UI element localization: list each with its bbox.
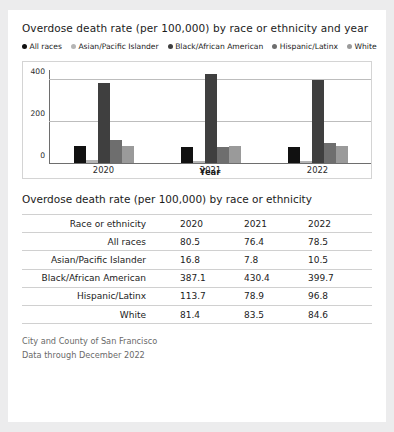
- legend-marker-icon: [272, 44, 277, 49]
- table-cell-label: Black/African American: [22, 269, 180, 287]
- bar: [74, 146, 86, 163]
- table-row: White81.483.584.6: [22, 305, 372, 323]
- table-cell-label: Asian/Pacific Islander: [22, 251, 180, 269]
- bar-group: 2020: [50, 70, 157, 163]
- bar: [217, 147, 229, 163]
- table-cell-value: 16.8: [180, 251, 244, 269]
- bar-group: 2022: [264, 70, 371, 163]
- bar-groups: 202020212022: [50, 70, 371, 163]
- bar: [122, 146, 134, 163]
- legend-marker-icon: [71, 44, 76, 49]
- bar: [98, 83, 110, 163]
- table-cell-value: 430.4: [244, 269, 308, 287]
- table-cell-value: 76.4: [244, 233, 308, 251]
- report-card: Overdose death rate (per 100,000) by rac…: [8, 10, 386, 422]
- table-row: Asian/Pacific Islander16.87.810.5: [22, 251, 372, 269]
- legend-item: White: [347, 42, 377, 51]
- legend-label: All races: [30, 42, 62, 51]
- table-header-row: Race or ethnicity 2020 2021 2022: [22, 215, 372, 233]
- table-cell-value: 7.8: [244, 251, 308, 269]
- plot-area: 0200400 202020212022: [49, 70, 371, 164]
- table-cell-value: 81.4: [180, 305, 244, 323]
- chart-panel: 0200400 202020212022 Year: [22, 61, 372, 179]
- table-cell-value: 96.8: [308, 287, 372, 305]
- legend-marker-icon: [168, 44, 173, 49]
- legend-label: Asian/Pacific Islander: [78, 42, 158, 51]
- legend-label: Hispanic/Latinx: [280, 42, 338, 51]
- legend-item: Asian/Pacific Islander: [71, 42, 159, 51]
- table-cell-value: 113.7: [180, 287, 244, 305]
- footer: City and County of San Francisco Data th…: [22, 335, 372, 362]
- bar: [300, 161, 312, 163]
- bar: [312, 80, 324, 163]
- chart-title: Overdose death rate (per 100,000) by rac…: [22, 22, 372, 34]
- table-cell-value: 80.5: [180, 233, 244, 251]
- y-axis-tick-label: 400: [31, 66, 46, 75]
- y-axis-tick-label: 0: [40, 151, 45, 160]
- table-cell-value: 78.5: [308, 233, 372, 251]
- footer-date: Data through December 2022: [22, 349, 372, 363]
- table-cell-value: 84.6: [308, 305, 372, 323]
- bar: [229, 146, 241, 163]
- table-header-2021: 2021: [244, 215, 308, 233]
- table-cell-label: White: [22, 305, 180, 323]
- table-row: Black/African American387.1430.4399.7: [22, 269, 372, 287]
- table-header-race: Race or ethnicity: [22, 215, 180, 233]
- table-row: Hispanic/Latinx113.778.996.8: [22, 287, 372, 305]
- legend-item: Black/African American: [168, 42, 264, 51]
- bar: [181, 147, 193, 163]
- bar: [336, 146, 348, 163]
- legend-label: White: [354, 42, 376, 51]
- footer-source: City and County of San Francisco: [22, 335, 372, 349]
- bar-group: 2021: [157, 70, 264, 163]
- bar: [324, 143, 336, 163]
- gridline: 0: [49, 163, 371, 164]
- chart-legend: All racesAsian/Pacific IslanderBlack/Afr…: [22, 42, 372, 51]
- table-cell-label: All races: [22, 233, 180, 251]
- legend-item: All races: [22, 42, 62, 51]
- legend-marker-icon: [347, 44, 352, 49]
- table-cell-value: 78.9: [244, 287, 308, 305]
- bar: [288, 147, 300, 163]
- x-axis-title: Year: [49, 167, 371, 177]
- legend-marker-icon: [22, 44, 27, 49]
- table-cell-value: 399.7: [308, 269, 372, 287]
- bar: [86, 160, 98, 163]
- table-header-2020: 2020: [180, 215, 244, 233]
- table-cell-value: 83.5: [244, 305, 308, 323]
- y-axis-tick-label: 200: [31, 108, 46, 117]
- bar: [110, 140, 122, 163]
- table-row: All races80.576.478.5: [22, 233, 372, 251]
- table-header-2022: 2022: [308, 215, 372, 233]
- bar: [193, 161, 205, 163]
- table-title: Overdose death rate (per 100,000) by rac…: [22, 193, 372, 205]
- data-table: Race or ethnicity 2020 2021 2022 All rac…: [22, 214, 372, 324]
- table-cell-value: 387.1: [180, 269, 244, 287]
- legend-item: Hispanic/Latinx: [272, 42, 338, 51]
- table-cell-value: 10.5: [308, 251, 372, 269]
- bar: [205, 74, 217, 163]
- legend-label: Black/African American: [175, 42, 263, 51]
- table-cell-label: Hispanic/Latinx: [22, 287, 180, 305]
